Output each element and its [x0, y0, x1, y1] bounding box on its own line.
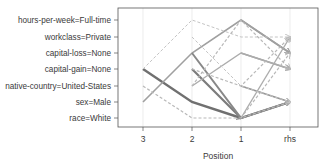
rule-lines: [143, 20, 290, 118]
x-axis: 321rhs: [141, 127, 296, 144]
y-tick-label: race=White: [69, 114, 111, 123]
x-tick-label: 2: [190, 134, 195, 144]
x-tick-label: 3: [141, 134, 146, 144]
plot-frame: [118, 8, 318, 127]
x-tick-label: 1: [239, 134, 244, 144]
y-tick-label: hours-per-week=Full-time: [18, 16, 111, 25]
y-tick-label: capital-gain=None: [45, 65, 112, 74]
x-axis-title: Position: [203, 151, 234, 161]
rule-line: [241, 53, 290, 118]
y-tick-label: native-country=United-States: [5, 82, 111, 91]
parallel-coordinates-chart: hours-per-week=Full-timeworkclass=Privat…: [0, 0, 325, 168]
rule-line: [241, 37, 290, 118]
rule-line: [143, 86, 290, 118]
y-tick-label: workclass=Private: [44, 33, 112, 42]
x-tick-label: rhs: [284, 134, 296, 144]
y-tick-label: capital-loss=None: [46, 49, 112, 58]
y-tick-label: sex=Male: [76, 98, 112, 107]
y-axis: hours-per-week=Full-timeworkclass=Privat…: [5, 16, 118, 123]
